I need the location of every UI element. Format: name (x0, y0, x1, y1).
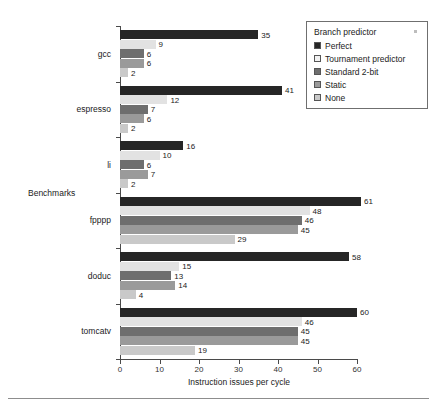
y-axis-group-tick (116, 82, 121, 83)
legend-item-label: Perfect (325, 41, 352, 51)
bar[interactable] (120, 197, 361, 206)
bar-value-label: 35 (261, 30, 270, 39)
x-axis-title: Instruction issues per cycle (120, 377, 358, 387)
bar-row: 48 (120, 206, 357, 215)
bar[interactable] (120, 327, 298, 336)
bar[interactable] (120, 271, 171, 280)
bar-row: 45 (120, 327, 357, 336)
y-axis-title: Benchmarks (28, 188, 75, 198)
legend-items: PerfectTournament predictorStandard 2-bi… (314, 40, 421, 103)
benchmark-label: gcc (98, 49, 111, 59)
bar-row: 14 (120, 281, 357, 290)
bar-row: 2 (120, 179, 357, 188)
bar[interactable] (120, 252, 349, 261)
bar[interactable] (120, 86, 282, 95)
bar-row: 58 (120, 252, 357, 261)
bar[interactable] (120, 160, 144, 169)
legend-item[interactable]: Perfect (314, 40, 421, 51)
bar[interactable] (120, 346, 195, 355)
bar[interactable] (120, 216, 302, 225)
bar[interactable] (120, 206, 310, 215)
bar-value-label: 9 (159, 40, 163, 49)
bar-value-label: 2 (131, 179, 135, 188)
bar-value-label: 15 (182, 262, 191, 271)
bar[interactable] (120, 308, 357, 317)
legend-swatch-icon (314, 94, 321, 101)
bar-value-label: 2 (131, 68, 135, 77)
chart-figure: gcc359662espresso4112762li1610672fpppp61… (0, 0, 437, 409)
bar[interactable] (120, 68, 128, 77)
bar-value-label: 14 (178, 281, 187, 290)
bar[interactable] (120, 124, 128, 133)
bar-row: 60 (120, 308, 357, 317)
bottom-divider (8, 398, 429, 399)
bar[interactable] (120, 336, 298, 345)
bar-group: fpppp6148464529 (120, 193, 357, 249)
bar-row: 46 (120, 317, 357, 326)
bar[interactable] (120, 262, 179, 271)
bar-value-label: 2 (131, 124, 135, 133)
legend-swatch-icon (314, 81, 321, 88)
benchmark-label: fpppp (90, 215, 111, 225)
legend-title: Branch predictor (314, 27, 421, 37)
legend-item[interactable]: None (314, 92, 421, 103)
bar[interactable] (120, 30, 258, 39)
bar-value-label: 46 (305, 216, 314, 225)
bar-value-label: 48 (313, 206, 322, 215)
x-axis-tick (160, 360, 161, 364)
legend-item-label: Static (325, 80, 346, 90)
benchmark-label: doduc (88, 271, 111, 281)
bar[interactable] (120, 141, 183, 150)
x-axis-tick-label: 10 (155, 365, 164, 374)
bar[interactable] (120, 170, 148, 179)
bar[interactable] (120, 235, 235, 244)
bar[interactable] (120, 59, 144, 68)
legend-item[interactable]: Static (314, 79, 421, 90)
bar-row: 46 (120, 216, 357, 225)
x-axis-tick (318, 360, 319, 364)
legend-item-label: Standard 2-bit (325, 67, 378, 77)
bar[interactable] (120, 114, 144, 123)
legend-item[interactable]: Tournament predictor (314, 53, 421, 64)
bar-value-label: 45 (301, 336, 310, 345)
legend-item[interactable]: Standard 2-bit (314, 66, 421, 77)
bar[interactable] (120, 105, 148, 114)
x-axis-tick (120, 360, 121, 364)
legend-title-text: Branch predictor (314, 27, 376, 37)
bar-value-label: 7 (151, 105, 155, 114)
bar-row: 61 (120, 197, 357, 206)
benchmark-label: espresso (77, 104, 112, 114)
legend: Branch predictor PerfectTournament predi… (306, 21, 428, 109)
bar-value-label: 13 (174, 271, 183, 280)
bar[interactable] (120, 317, 302, 326)
bar-value-label: 7 (151, 170, 155, 179)
bar-row: 7 (120, 170, 357, 179)
bar[interactable] (120, 290, 136, 299)
bar-value-label: 12 (170, 95, 179, 104)
benchmark-label: li (107, 160, 111, 170)
legend-item-label: Tournament predictor (325, 54, 405, 64)
x-axis-tick-label: 40 (274, 365, 283, 374)
bar-value-label: 58 (352, 252, 361, 261)
bar[interactable] (120, 49, 144, 58)
bar[interactable] (120, 179, 128, 188)
legend-item-label: None (325, 93, 345, 103)
bar-value-label: 19 (198, 346, 207, 355)
legend-swatch-icon (314, 68, 321, 75)
bar-row: 13 (120, 271, 357, 280)
legend-title-mark-icon (414, 30, 417, 33)
x-axis-tick (199, 360, 200, 364)
bar-row: 6 (120, 114, 357, 123)
bar[interactable] (120, 151, 160, 160)
bar-row: 45 (120, 336, 357, 345)
bar[interactable] (120, 281, 175, 290)
bar[interactable] (120, 95, 167, 104)
bar[interactable] (120, 225, 298, 234)
y-axis-group-tick (116, 193, 121, 194)
bar-row: 2 (120, 124, 357, 133)
bar[interactable] (120, 40, 156, 49)
y-axis-group-tick (116, 248, 121, 249)
bar-group: doduc581513144 (120, 248, 357, 304)
benchmark-label: tomcatv (81, 326, 111, 336)
bar-value-label: 4 (139, 290, 143, 299)
